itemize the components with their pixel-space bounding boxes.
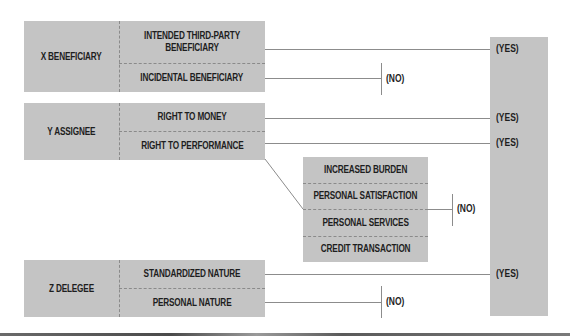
connector-standardized-to-yes	[265, 274, 490, 275]
connector-exceptions-to-no	[428, 209, 452, 210]
z-delegee-label: Z DELEGEE	[24, 260, 119, 317]
personal-nature-label: PERSONAL NATURE	[119, 288, 265, 317]
no-label-exceptions: (NO)	[457, 203, 479, 215]
yes-label-standardized: (YES)	[496, 268, 523, 280]
standardized-nature-label: STANDARDIZED NATURE	[119, 260, 265, 288]
personal-satisfaction-label: PERSONAL SATISFACTION	[303, 183, 428, 209]
credit-transaction-label: CREDIT TRANSACTION	[303, 236, 428, 262]
connector-personal-nature-to-no	[265, 302, 381, 303]
no-label-personal-nature: (NO)	[386, 296, 408, 308]
increased-burden-label: INCREASED BURDEN	[303, 157, 428, 183]
no-bar-exceptions	[452, 194, 453, 226]
no-bar-personal-nature	[381, 286, 382, 318]
personal-services-label: PERSONAL SERVICES	[303, 209, 428, 236]
